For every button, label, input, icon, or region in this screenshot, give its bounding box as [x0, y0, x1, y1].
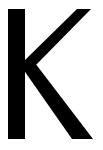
letter-k-icon: [0, 0, 103, 150]
letter-stem: [8, 9, 25, 139]
